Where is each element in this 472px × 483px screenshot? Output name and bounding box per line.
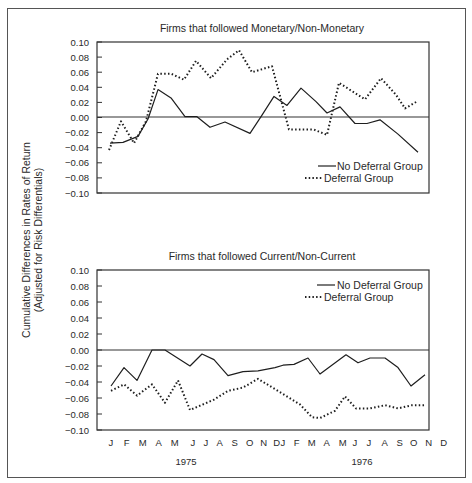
month-label: J: [108, 437, 113, 448]
chart-current: Firms that followed Current/Non-Current …: [65, 250, 448, 467]
chart-monetary: Firms that followed Monetary/Non-Monetar…: [65, 22, 429, 199]
y-tick-label: 0.10: [71, 37, 90, 48]
year-label-1976: 1976: [351, 456, 372, 467]
y-tick-label: 0.02: [71, 329, 90, 340]
month-label: J: [190, 437, 195, 448]
month-label: A: [382, 437, 389, 448]
y-axis-label: Cumulative Differences in Rates of Retur…: [20, 142, 44, 338]
month-label: N: [260, 437, 267, 448]
y-tick-label: 0.00: [71, 345, 90, 356]
series-deferral-group: [111, 379, 425, 418]
y-tick-label: 0.02: [71, 97, 90, 108]
series-no-deferral-group: [110, 88, 418, 152]
y-tick-label: 0.08: [71, 281, 90, 292]
y-tick-label: −0.04: [65, 377, 89, 388]
month-label: A: [217, 437, 224, 448]
series-no-deferral-group: [111, 350, 425, 386]
chart-title: Firms that followed Current/Non-Current: [169, 250, 356, 262]
month-label: A: [324, 437, 331, 448]
legend-deferral: Deferral Group: [324, 172, 394, 184]
chart-title: Firms that followed Monetary/Non-Monetar…: [160, 22, 365, 34]
month-label: O: [246, 437, 254, 448]
y-axis-label-line1: Cumulative Differences in Rates of Retur…: [20, 142, 32, 338]
y-tick-label: −0.06: [65, 393, 89, 404]
series-deferral-group: [109, 50, 418, 150]
month-label: S: [397, 437, 404, 448]
month-label: J: [203, 437, 208, 448]
y-tick-label: −0.10: [65, 188, 89, 199]
y-tick-label: 0.04: [71, 313, 90, 324]
x-axis-month-labels: JFMAMJJASONDJFMAMJJASOND: [108, 437, 447, 448]
y-tick-label: −0.02: [65, 127, 89, 138]
legend-no-deferral: No Deferral Group: [337, 279, 423, 291]
month-label: M: [308, 437, 316, 448]
legend: No Deferral Group Deferral Group: [305, 279, 423, 303]
figure: Cumulative Differences in Rates of Retur…: [0, 0, 472, 483]
month-label: N: [425, 437, 432, 448]
month-label: M: [339, 437, 347, 448]
y-axis-label-line2: (Adjusted for Risk Differentials): [32, 168, 44, 313]
y-tick-label: −0.02: [65, 361, 89, 372]
y-tick-label: 0.00: [71, 112, 90, 123]
y-tick-label: 0.04: [71, 82, 90, 93]
month-label: S: [232, 437, 239, 448]
data-lines: [111, 350, 425, 418]
y-tick-label: −0.06: [65, 157, 89, 168]
y-tick-label: −0.04: [65, 142, 89, 153]
month-label: D: [440, 437, 447, 448]
y-tick-label: 0.06: [71, 297, 90, 308]
month-label: M: [171, 437, 179, 448]
month-label: O: [410, 437, 418, 448]
year-label-1975: 1975: [175, 456, 196, 467]
y-tick-label: 0.08: [71, 52, 90, 63]
month-label: J: [280, 437, 285, 448]
month-label: J: [352, 437, 357, 448]
legend: No Deferral Group Deferral Group: [305, 160, 423, 184]
y-tick-label: 0.10: [71, 265, 90, 276]
legend-no-deferral: No Deferral Group: [337, 160, 423, 172]
y-tick-label: −0.10: [65, 425, 89, 436]
y-tick-label: 0.06: [71, 67, 90, 78]
month-label: F: [294, 437, 300, 448]
data-lines: [109, 50, 418, 152]
y-tick-label: −0.08: [65, 409, 89, 420]
month-label: J: [366, 437, 371, 448]
month-label: M: [139, 437, 147, 448]
y-tick-label: −0.08: [65, 172, 89, 183]
legend-deferral: Deferral Group: [324, 291, 394, 303]
month-label: F: [124, 437, 130, 448]
month-label: A: [156, 437, 163, 448]
